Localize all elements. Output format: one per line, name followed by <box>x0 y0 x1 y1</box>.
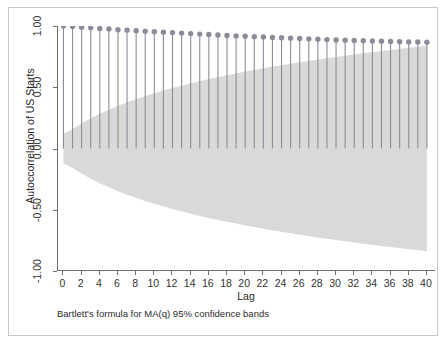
acf-point <box>106 26 111 31</box>
acf-plot-svg <box>58 26 436 271</box>
x-tick-mark <box>171 271 172 275</box>
x-tick-label: 34 <box>366 277 378 289</box>
x-tick-label: 18 <box>220 277 232 289</box>
x-tick-label: 4 <box>96 277 102 289</box>
acf-point <box>361 38 366 43</box>
x-tick-label: 12 <box>166 277 178 289</box>
acf-point <box>70 26 75 29</box>
acf-point <box>315 37 320 42</box>
x-tick-mark <box>317 271 318 275</box>
acf-point <box>133 28 138 33</box>
acf-point <box>170 30 175 35</box>
acf-point <box>215 32 220 37</box>
acf-point <box>370 38 375 43</box>
x-tick-mark <box>299 271 300 275</box>
x-tick-mark <box>262 271 263 275</box>
acf-point <box>324 37 329 42</box>
x-axis-title: Lag <box>57 290 435 302</box>
acf-point <box>342 38 347 43</box>
acf-point <box>270 35 275 40</box>
x-tick-label: 2 <box>78 277 84 289</box>
acf-point <box>297 36 302 41</box>
x-tick-mark <box>99 271 100 275</box>
y-tick-label: -0.50 <box>29 195 45 225</box>
x-tick-mark <box>281 271 282 275</box>
acf-stems-group <box>63 26 426 149</box>
x-tick-label: 22 <box>257 277 269 289</box>
acf-point <box>233 33 238 38</box>
acf-point <box>224 33 229 38</box>
x-tick-label: 26 <box>293 277 305 289</box>
acf-point <box>397 39 402 44</box>
acf-point <box>61 26 66 29</box>
acf-point <box>242 34 247 39</box>
x-tick-label: 32 <box>347 277 359 289</box>
x-tick-label: 14 <box>184 277 196 289</box>
x-tick-label: 10 <box>147 277 159 289</box>
acf-point <box>279 35 284 40</box>
x-tick-mark <box>408 271 409 275</box>
acf-point <box>288 35 293 40</box>
acf-point <box>161 29 166 34</box>
acf-point <box>306 36 311 41</box>
acf-point <box>415 39 420 44</box>
acf-point <box>143 28 148 33</box>
x-tick-mark <box>426 271 427 275</box>
x-tick-label: 38 <box>402 277 414 289</box>
x-tick-mark <box>135 271 136 275</box>
x-tick-mark <box>117 271 118 275</box>
plot-region <box>57 26 435 271</box>
x-tick-mark <box>153 271 154 275</box>
acf-point <box>88 26 93 31</box>
x-tick-mark <box>371 271 372 275</box>
acf-point <box>424 39 429 44</box>
x-tick-label: 0 <box>60 277 66 289</box>
x-tick-label: 36 <box>384 277 396 289</box>
x-tick-mark <box>335 271 336 275</box>
x-tick-label: 8 <box>132 277 138 289</box>
x-tick-mark <box>190 271 191 275</box>
acf-point <box>333 37 338 42</box>
x-tick-mark <box>62 271 63 275</box>
chart-note: Bartlett's formula for MA(q) 95% confide… <box>57 308 269 319</box>
acf-point <box>115 27 120 32</box>
acf-point <box>388 39 393 44</box>
acf-point <box>206 32 211 37</box>
y-tick-mark <box>53 271 57 272</box>
x-tick-label: 6 <box>114 277 120 289</box>
x-tick-label: 16 <box>202 277 214 289</box>
acf-point <box>252 34 257 39</box>
x-tick-label: 30 <box>329 277 341 289</box>
acf-point <box>197 31 202 36</box>
x-tick-mark <box>208 271 209 275</box>
acf-point <box>124 27 129 32</box>
y-tick-label: 0.00 <box>29 134 45 164</box>
acf-point <box>406 39 411 44</box>
x-tick-label: 40 <box>420 277 432 289</box>
acf-point <box>352 38 357 43</box>
x-tick-mark <box>390 271 391 275</box>
acf-point <box>97 26 102 31</box>
x-tick-mark <box>81 271 82 275</box>
y-tick-label: 1.00 <box>29 11 45 41</box>
acf-point <box>188 31 193 36</box>
y-tick-label: 0.50 <box>29 72 45 102</box>
x-tick-label: 28 <box>311 277 323 289</box>
acf-point <box>179 30 184 35</box>
x-tick-mark <box>244 271 245 275</box>
x-tick-label: 24 <box>275 277 287 289</box>
acf-point <box>79 26 84 30</box>
x-tick-mark <box>226 271 227 275</box>
y-tick-label: -1.00 <box>29 256 45 286</box>
x-tick-mark <box>353 271 354 275</box>
acf-point <box>379 38 384 43</box>
x-tick-label: 20 <box>238 277 250 289</box>
acf-figure: Autoccorrelation of US Starts -1.00-0.50… <box>0 0 448 344</box>
acf-point <box>152 29 157 34</box>
acf-point <box>261 34 266 39</box>
